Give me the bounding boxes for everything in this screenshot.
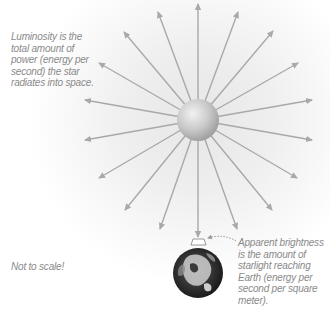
dotted-arrow-icon bbox=[208, 236, 236, 241]
luminosity-vs-brightness-diagram: Luminosity is the total amount of power … bbox=[0, 0, 330, 311]
luminosity-caption: Luminosity is the total amount of power … bbox=[11, 31, 96, 89]
star-sphere-icon bbox=[177, 99, 219, 141]
earth-globe-icon bbox=[173, 248, 223, 298]
not-to-scale-note: Not to scale! bbox=[11, 261, 64, 273]
apparent-brightness-caption: Apparent brightness is the amount of sta… bbox=[238, 237, 330, 306]
area-patch-icon bbox=[191, 239, 206, 245]
